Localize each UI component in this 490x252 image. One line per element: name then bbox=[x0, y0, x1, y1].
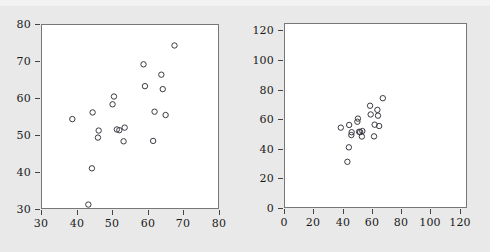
data-point bbox=[375, 107, 380, 112]
data-point bbox=[111, 94, 116, 99]
data-point bbox=[90, 110, 95, 115]
data-point bbox=[375, 113, 380, 118]
data-point bbox=[160, 86, 165, 91]
data-point bbox=[110, 102, 115, 107]
data-point bbox=[159, 72, 164, 77]
data-point bbox=[345, 159, 350, 164]
data-point bbox=[163, 112, 168, 117]
data-point bbox=[96, 128, 101, 133]
data-point bbox=[346, 122, 351, 127]
scatter-panel-left: 304050607080304050607080 bbox=[0, 0, 245, 252]
left-panel-data-layer bbox=[0, 0, 245, 252]
data-point bbox=[346, 145, 351, 150]
data-point bbox=[89, 166, 94, 171]
data-point bbox=[152, 109, 157, 114]
data-point bbox=[367, 103, 372, 108]
data-point bbox=[172, 43, 177, 48]
scatter-panel-right: 020406080100120020406080100120 bbox=[245, 0, 490, 252]
figure-canvas: 304050607080304050607080 020406080100120… bbox=[0, 0, 490, 252]
data-point bbox=[368, 112, 373, 117]
data-point bbox=[141, 62, 146, 67]
data-point bbox=[380, 95, 385, 100]
data-point bbox=[142, 83, 147, 88]
data-point bbox=[95, 135, 100, 140]
data-point bbox=[122, 125, 127, 130]
data-point bbox=[371, 134, 376, 139]
data-point bbox=[338, 125, 343, 130]
data-point bbox=[70, 116, 75, 121]
data-point bbox=[150, 138, 155, 143]
data-point bbox=[121, 139, 126, 144]
data-point bbox=[86, 202, 91, 207]
right-panel-data-layer bbox=[245, 0, 490, 252]
